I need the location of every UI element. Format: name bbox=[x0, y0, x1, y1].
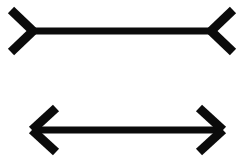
muller-lyer-figure bbox=[0, 0, 243, 157]
